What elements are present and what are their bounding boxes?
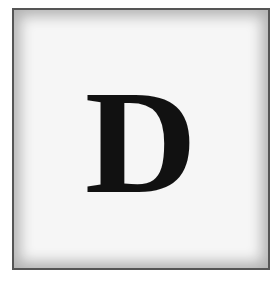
letter-tile: D bbox=[12, 8, 270, 270]
tile-letter: D bbox=[8, 68, 274, 216]
